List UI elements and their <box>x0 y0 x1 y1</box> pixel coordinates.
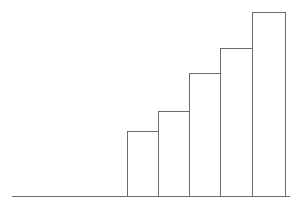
bars-group <box>128 13 286 197</box>
bar-1 <box>128 132 159 197</box>
chart-canvas <box>0 0 298 211</box>
bar-5 <box>253 13 286 197</box>
bar-2 <box>159 112 191 197</box>
bar-chart-figure <box>0 0 298 211</box>
bar-3 <box>190 74 222 197</box>
bar-4 <box>221 49 253 197</box>
